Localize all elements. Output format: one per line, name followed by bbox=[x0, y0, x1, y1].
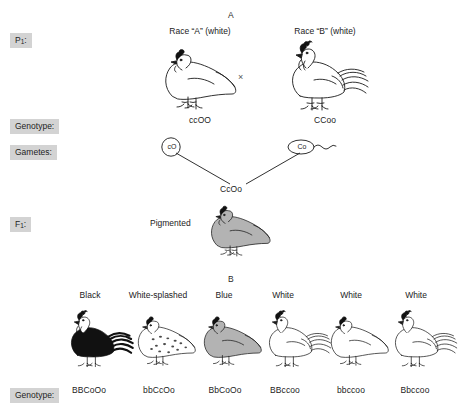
panel-b-genotype-2: BbCoOo bbox=[194, 385, 256, 395]
row-label-f1-text: F1: bbox=[10, 217, 31, 232]
row-label-genotype-b: Genotype: bbox=[10, 384, 59, 403]
row-label-gametes-text: Gametes: bbox=[10, 145, 57, 160]
panel-a-letter: A bbox=[0, 10, 462, 20]
cross-symbol: × bbox=[238, 72, 243, 82]
panel-b-phenotype-5: White bbox=[385, 290, 447, 300]
panel-b-genotype-0: BBCoOo bbox=[58, 385, 120, 395]
panel-b-phenotype-4: White bbox=[320, 290, 382, 300]
panel-b-phenotype-0: Black bbox=[60, 290, 120, 300]
row-label-genotype-b-text: Genotype: bbox=[10, 388, 59, 403]
panel-b-genotype-4: bbccoo bbox=[320, 385, 382, 395]
panel-b-bird-5-illustration bbox=[382, 308, 460, 370]
panel-b-bird-1-illustration bbox=[132, 312, 202, 368]
figure-canvas: A P1: Race “A” (white) Race “B” (white) bbox=[0, 0, 462, 415]
panel-b-phenotype-3: White bbox=[252, 290, 314, 300]
panel-b-bird-0-illustration bbox=[58, 308, 136, 370]
panel-b-letter: B bbox=[0, 274, 462, 284]
f1-pigmented-hen-illustration bbox=[205, 196, 277, 264]
f1-zygote-genotype: CcOo bbox=[191, 184, 271, 194]
panel-b-phenotype-1: White-splashed bbox=[118, 290, 198, 300]
parent-a-genotype: ccOO bbox=[140, 115, 260, 125]
parent-a-hen-illustration bbox=[158, 44, 244, 112]
gamete-fusion-lines bbox=[168, 150, 308, 188]
panel-b-phenotype-2: Blue bbox=[196, 290, 252, 300]
panel-b-genotype-5: Bbccoo bbox=[384, 385, 446, 395]
parent-b-rooster-illustration bbox=[276, 40, 372, 112]
panel-b-bird-3-illustration bbox=[256, 308, 334, 370]
row-label-genotype-a-text: Genotype: bbox=[10, 119, 59, 134]
panel-b-genotype-3: BBccoo bbox=[254, 385, 316, 395]
parent-b-caption: Race “B” (white) bbox=[245, 26, 405, 36]
row-label-genotype-a: Genotype: bbox=[10, 115, 59, 134]
gamete-egg-label: cO bbox=[160, 143, 184, 150]
row-label-f1: F1: bbox=[10, 213, 31, 232]
row-label-parents: P1: bbox=[10, 29, 32, 48]
panel-b-genotype-1: bbCcOo bbox=[128, 385, 190, 395]
row-label-gametes: Gametes: bbox=[10, 141, 57, 160]
row-label-parents-text: P1: bbox=[10, 33, 32, 48]
parent-b-genotype: CCoo bbox=[265, 115, 385, 125]
gamete-sperm-label: Co bbox=[289, 143, 315, 150]
